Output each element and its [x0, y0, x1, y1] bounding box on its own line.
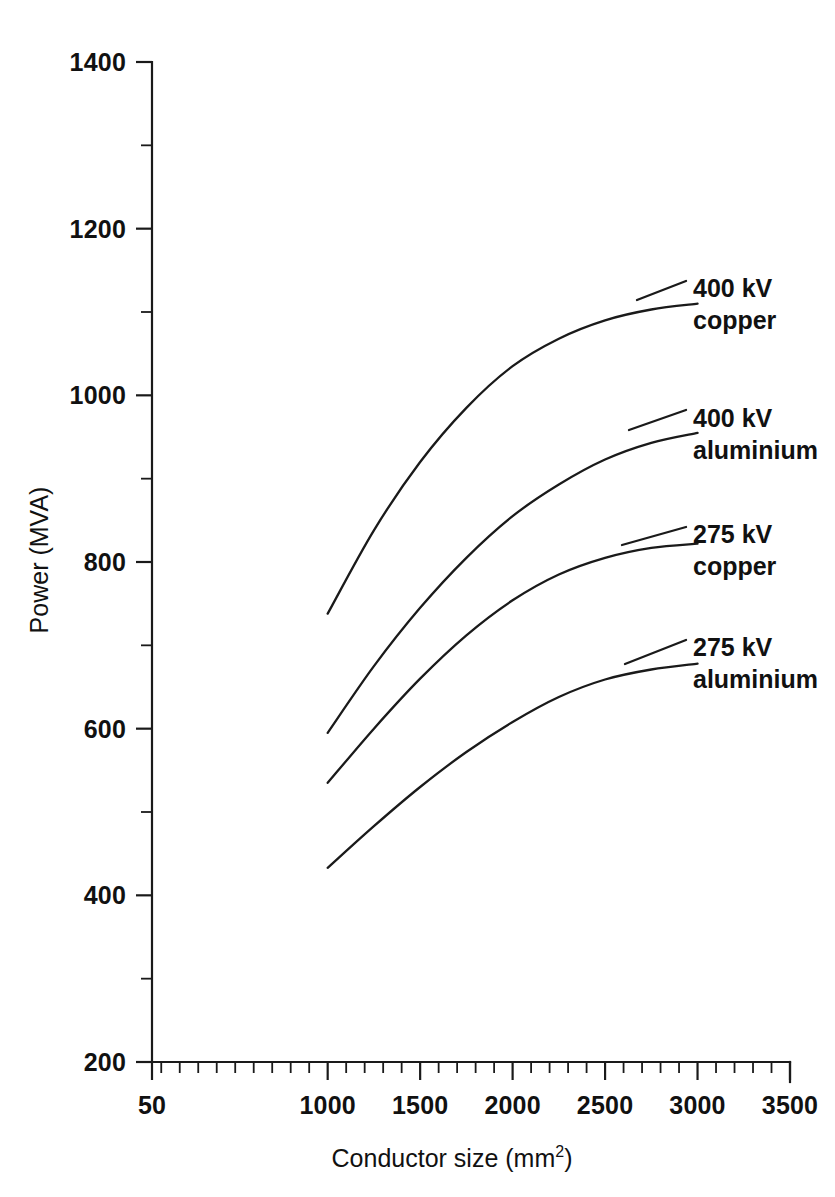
power-vs-conductor-size-chart: 200400600800100012001400 501000150020002…: [0, 0, 835, 1197]
y-tick-label: 1000: [70, 381, 126, 409]
x-tick-label: 2500: [577, 1091, 633, 1119]
x-tick-label: 2000: [484, 1091, 540, 1119]
y-tick-label: 400: [84, 881, 126, 909]
series-label-275kv-copper-line2: copper: [693, 552, 777, 580]
x-tick-label: 1000: [299, 1091, 355, 1119]
x-axis-title: Conductor size (mm2): [332, 1143, 573, 1172]
x-tick-label: 50: [138, 1091, 166, 1119]
series-label-275kv-aluminium-line2: aluminium: [693, 665, 818, 693]
chart-figure: 200400600800100012001400 501000150020002…: [0, 0, 835, 1197]
series-label-400kv-aluminium-line1: 400 kV: [693, 404, 773, 432]
series-label-400kv-copper-line2: copper: [693, 306, 777, 334]
series-label-400kv-copper-line1: 400 kV: [693, 274, 773, 302]
x-axis-title-superscript: 2: [555, 1143, 564, 1160]
x-axis-title-main: Conductor size (mm: [332, 1144, 556, 1172]
x-tick-label: 3000: [669, 1091, 725, 1119]
x-tick-label: 3500: [762, 1091, 818, 1119]
series-label-400kv-aluminium-line2: aluminium: [693, 436, 818, 464]
y-tick-label: 200: [84, 1048, 126, 1076]
x-axis-title-tail: ): [564, 1144, 572, 1172]
series-label-275kv-aluminium-line1: 275 kV: [693, 633, 773, 661]
y-tick-label: 600: [84, 715, 126, 743]
y-tick-label: 1200: [70, 215, 126, 243]
y-axis-title: Power (MVA): [25, 487, 53, 634]
y-tick-label: 1400: [70, 48, 126, 76]
y-tick-label: 800: [84, 548, 126, 576]
series-label-275kv-copper-line1: 275 kV: [693, 520, 773, 548]
x-tick-label: 1500: [392, 1091, 448, 1119]
chart-background: [0, 0, 835, 1197]
